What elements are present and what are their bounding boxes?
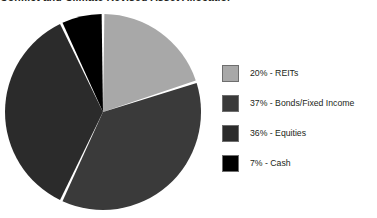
legend-label-reits: 20% - REITs [250, 69, 298, 78]
legend-item-bonds-fixed-income[interactable]: 37% - Bonds/Fixed Income [222, 88, 377, 118]
legend-swatch-reits [222, 65, 239, 82]
legend-label-bonds-fixed-income: 37% - Bonds/Fixed Income [250, 99, 354, 108]
chart-legend: 20% - REITs 37% - Bonds/Fixed Income 36%… [222, 58, 377, 178]
chart-title: Conflict and Climate Revised Asset Alloc… [0, 0, 230, 3]
pie-graphic [5, 14, 201, 210]
legend-item-equities[interactable]: 36% - Equities [222, 118, 377, 148]
legend-item-cash[interactable]: 7% - Cash [222, 148, 377, 178]
legend-item-reits[interactable]: 20% - REITs [222, 58, 377, 88]
legend-swatch-bonds-fixed-income [222, 95, 239, 112]
legend-swatch-equities [222, 125, 239, 142]
legend-swatch-cash [222, 155, 239, 172]
pie-chart-figure: Conflict and Climate Revised Asset Alloc… [0, 0, 377, 218]
pie-svg [5, 14, 201, 210]
legend-label-cash: 7% - Cash [250, 159, 291, 168]
legend-label-equities: 36% - Equities [250, 129, 306, 138]
